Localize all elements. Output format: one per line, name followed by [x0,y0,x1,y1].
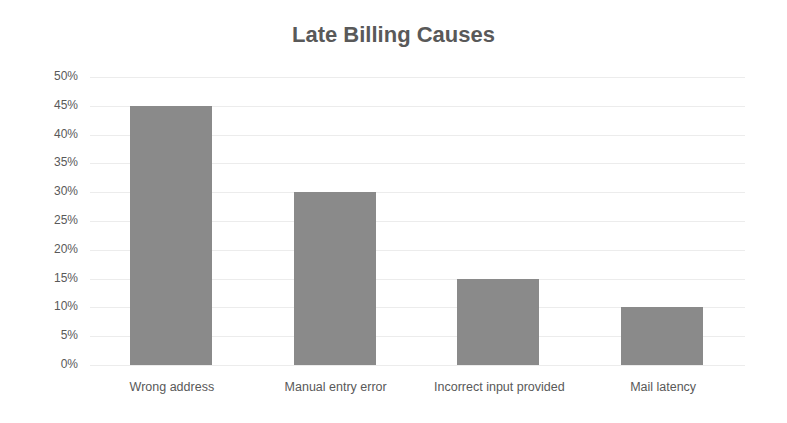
bar [294,192,376,365]
y-tick-label: 5% [0,328,78,342]
plot-area [90,77,745,365]
gridline [90,365,745,366]
y-tick-label: 10% [0,299,78,313]
x-tick-label: Wrong address [90,380,254,394]
bar [457,279,539,365]
y-tick-label: 45% [0,98,78,112]
y-tick-label: 20% [0,242,78,256]
chart-title: Late Billing Causes [0,22,787,48]
gridline [90,77,745,78]
y-tick-label: 30% [0,184,78,198]
y-tick-label: 0% [0,357,78,371]
y-tick-label: 40% [0,127,78,141]
bar [130,106,212,365]
y-tick-label: 15% [0,271,78,285]
y-tick-label: 35% [0,155,78,169]
y-tick-label: 25% [0,213,78,227]
x-tick-label: Mail latency [581,380,745,394]
x-tick-label: Manual entry error [254,380,418,394]
bar [621,307,703,365]
x-tick-label: Incorrect input provided [417,380,581,394]
y-tick-label: 50% [0,69,78,83]
